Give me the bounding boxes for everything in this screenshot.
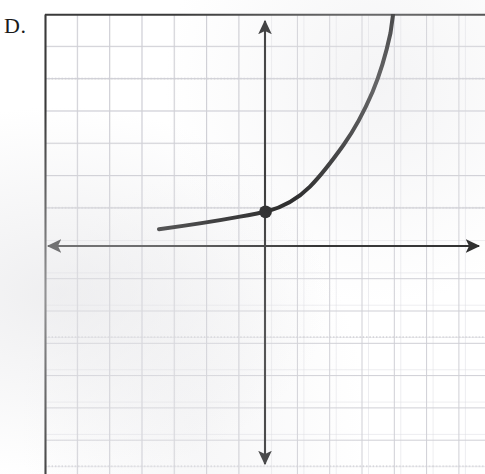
y-intercept-point [259, 205, 272, 218]
answer-choice-label: D. [4, 15, 26, 37]
graph-figure: D. [0, 0, 485, 474]
coordinate-plane-svg [0, 0, 485, 474]
